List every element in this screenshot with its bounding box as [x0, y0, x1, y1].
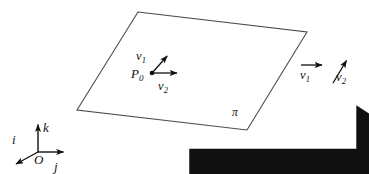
- free-vector-v2-label: v2: [336, 71, 346, 85]
- vector-overbar-icon: [159, 76, 167, 81]
- vector-overbar-icon: [337, 67, 345, 72]
- in-plane-vector-v1-label: v1: [136, 50, 146, 64]
- in-plane-vector-v2-label: v2: [158, 80, 168, 94]
- vector-overbar-icon: [13, 128, 21, 133]
- axis-vector-i-label: i: [12, 133, 16, 146]
- axis-vector-k-label: k: [43, 121, 49, 134]
- vector-overbar-icon: [137, 46, 145, 51]
- vector-overbar-icon: [301, 65, 309, 70]
- vector-overbar-icon: [44, 116, 52, 121]
- vector-plane-diagram: π P0 v1 v2 v1 v2 O i j k: [0, 0, 369, 174]
- free-vector-v1-label: v1: [300, 69, 310, 83]
